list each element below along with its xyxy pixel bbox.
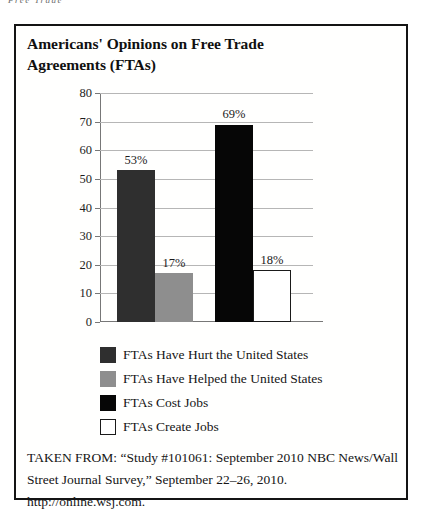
bar-value-label-1: 53% bbox=[114, 153, 158, 167]
legend-label-1: FTAs Have Hurt the United States bbox=[123, 347, 308, 363]
running-header: Free Trade bbox=[8, 0, 63, 5]
y-tick-label-20: 20 bbox=[59, 259, 92, 272]
bar-1 bbox=[117, 170, 155, 322]
bar-3 bbox=[215, 125, 253, 323]
bar-value-label-2: 17% bbox=[152, 256, 196, 270]
legend-label-4: FTAs Create Jobs bbox=[123, 419, 219, 435]
y-tick-60 bbox=[95, 150, 100, 151]
y-tick-80 bbox=[95, 93, 100, 94]
bar-value-label-4: 18% bbox=[250, 253, 294, 267]
gridline-60 bbox=[100, 150, 313, 151]
figure-title-line-2: Agreements (FTAs) bbox=[27, 54, 264, 75]
bar-4 bbox=[253, 270, 291, 322]
figure-title-line-1: Americans' Opinions on Free Trade bbox=[27, 33, 264, 54]
figure-box: Americans' Opinions on Free Trade Agreem… bbox=[14, 24, 408, 500]
y-tick-70 bbox=[95, 122, 100, 123]
y-tick-10 bbox=[95, 293, 100, 294]
y-tick-label-50: 50 bbox=[59, 173, 92, 186]
bar-value-label-3: 69% bbox=[212, 107, 256, 121]
y-tick-0 bbox=[95, 322, 100, 323]
y-tick-label-70: 70 bbox=[59, 116, 92, 129]
y-tick-label-10: 10 bbox=[59, 287, 92, 300]
legend-item-4: FTAs Create Jobs bbox=[100, 419, 323, 435]
y-tick-40 bbox=[95, 208, 100, 209]
figure-title: Americans' Opinions on Free Trade Agreem… bbox=[27, 33, 264, 75]
y-tick-20 bbox=[95, 265, 100, 266]
source-note-line-2: Street Journal Survey,” September 22–26,… bbox=[27, 469, 402, 513]
legend-label-2: FTAs Have Helped the United States bbox=[123, 371, 323, 387]
y-tick-label-40: 40 bbox=[59, 202, 92, 215]
legend-swatch-4 bbox=[100, 419, 116, 435]
legend-item-3: FTAs Cost Jobs bbox=[100, 395, 323, 411]
y-tick-label-80: 80 bbox=[59, 87, 92, 100]
y-tick-label-30: 30 bbox=[59, 230, 92, 243]
y-tick-50 bbox=[95, 179, 100, 180]
y-tick-30 bbox=[95, 236, 100, 237]
gridline-80 bbox=[100, 93, 313, 94]
chart-legend: FTAs Have Hurt the United StatesFTAs Hav… bbox=[100, 347, 323, 435]
legend-item-2: FTAs Have Helped the United States bbox=[100, 371, 323, 387]
source-note: TAKEN FROM: “Study #101061: September 20… bbox=[27, 447, 402, 513]
legend-swatch-2 bbox=[100, 371, 116, 387]
legend-swatch-1 bbox=[100, 347, 116, 363]
bar-2 bbox=[155, 273, 193, 322]
gridline-70 bbox=[100, 122, 313, 123]
plot-area: 0102030405060708053%17%69%18% bbox=[100, 93, 313, 322]
legend-swatch-3 bbox=[100, 395, 116, 411]
source-note-line-1: TAKEN FROM: “Study #101061: September 20… bbox=[27, 447, 402, 469]
legend-label-3: FTAs Cost Jobs bbox=[123, 395, 208, 411]
y-tick-label-0: 0 bbox=[59, 316, 92, 329]
legend-item-1: FTAs Have Hurt the United States bbox=[100, 347, 323, 363]
y-tick-label-60: 60 bbox=[59, 144, 92, 157]
